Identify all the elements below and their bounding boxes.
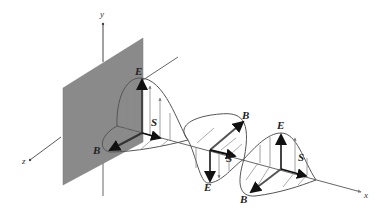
b-label-upper: B xyxy=(242,110,249,121)
e-label-bottom: E xyxy=(204,182,211,193)
e-label-top: E xyxy=(135,66,142,77)
poynting-vector-1 xyxy=(142,133,160,138)
s-label-first: S xyxy=(151,117,157,128)
em-wave-diagram xyxy=(0,0,378,211)
s-label-second: S xyxy=(226,153,232,164)
s-label-third: S xyxy=(298,152,304,163)
e-field-lobe-3 xyxy=(244,133,316,180)
x-axis-label: x xyxy=(364,191,368,200)
e-label-right: E xyxy=(277,120,284,131)
e-field-lobe-2 xyxy=(188,140,244,183)
b-label-lower: B xyxy=(240,194,247,205)
z-axis-label: z xyxy=(22,157,26,166)
z-axis xyxy=(29,137,61,161)
b-label-left: B xyxy=(93,145,100,156)
y-axis-label: y xyxy=(100,10,104,19)
x-axis-back xyxy=(143,57,178,80)
poynting-vector-3 xyxy=(281,169,306,176)
b-field-lobe-3 xyxy=(240,159,316,196)
